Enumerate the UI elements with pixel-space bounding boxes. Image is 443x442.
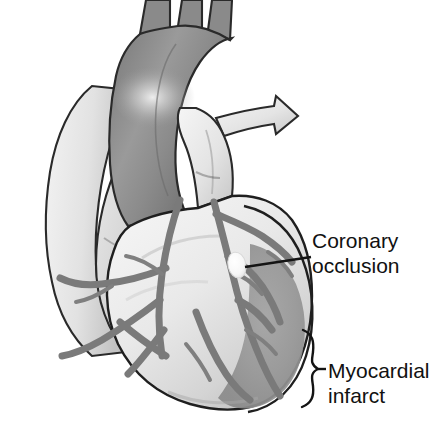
heart-illustration-figure: Coronary occlusion Myocardial infarct xyxy=(0,0,443,442)
myocardial-infarct-label-line2: infarct xyxy=(328,383,430,408)
coronary-occlusion-label-line1: Coronary xyxy=(312,228,400,253)
coronary-occlusion-label: Coronary occlusion xyxy=(312,228,400,278)
coronary-occlusion-label-line2: occlusion xyxy=(312,253,400,278)
myocardial-infarct-label: Myocardial infarct xyxy=(328,358,430,408)
left-common-carotid-artery xyxy=(178,0,202,28)
myocardial-infarct-label-line1: Myocardial xyxy=(328,358,430,383)
